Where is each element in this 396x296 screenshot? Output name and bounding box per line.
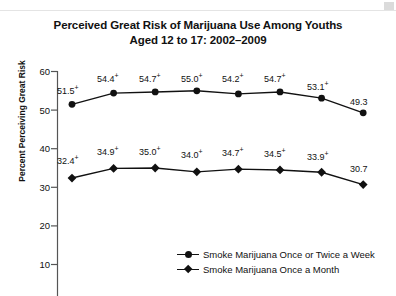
- legend-item-week[interactable]: Smoke Marijuana Once or Twice a Week: [176, 247, 375, 262]
- data-point-week-1[interactable]: [110, 90, 117, 97]
- point-label-month-2: 35.0+: [139, 147, 161, 157]
- point-label-month-1: 34.9+: [97, 147, 119, 157]
- data-series-group: [68, 87, 368, 189]
- data-point-week-0[interactable]: [69, 101, 76, 108]
- legend-diamond-marker-icon: [176, 264, 200, 276]
- data-point-week-2[interactable]: [152, 89, 159, 96]
- point-label-week-5: 54.7+: [264, 74, 286, 84]
- data-point-month-6[interactable]: [317, 168, 326, 177]
- data-point-week-7[interactable]: [360, 109, 367, 116]
- data-point-week-5[interactable]: [277, 89, 284, 96]
- y-axis: [51, 71, 58, 296]
- point-label-month-3: 34.0+: [181, 150, 203, 160]
- data-point-month-5[interactable]: [276, 166, 285, 175]
- point-label-month-0: 32.4+: [57, 156, 79, 166]
- point-label-week-7: 49.3: [350, 97, 368, 107]
- chart-figure: Perceived Great Risk of Marijuana Use Am…: [0, 0, 396, 296]
- point-label-month-6: 33.9+: [307, 152, 329, 162]
- data-point-month-2[interactable]: [151, 164, 160, 173]
- data-point-week-6[interactable]: [318, 95, 325, 102]
- data-point-month-4[interactable]: [234, 165, 243, 174]
- point-label-week-4: 54.2+: [222, 74, 244, 84]
- point-label-month-7: 30.7: [350, 164, 368, 174]
- point-label-week-6: 53.1+: [307, 82, 329, 92]
- legend-circle-marker-icon: [176, 249, 200, 261]
- point-label-month-5: 34.5+: [264, 149, 286, 159]
- data-point-month-7[interactable]: [359, 180, 368, 189]
- point-label-week-1: 54.4+: [97, 74, 119, 84]
- data-point-week-4[interactable]: [235, 90, 242, 97]
- data-point-month-3[interactable]: [192, 167, 201, 176]
- point-label-week-0: 51.5+: [57, 86, 79, 96]
- data-point-month-1[interactable]: [109, 164, 118, 173]
- data-point-week-3[interactable]: [193, 87, 200, 94]
- point-label-week-2: 54.7+: [139, 74, 161, 84]
- legend-label-month: Smoke Marijuana Once a Month: [203, 264, 339, 275]
- data-point-month-0[interactable]: [68, 174, 77, 183]
- point-label-month-4: 34.7+: [222, 148, 244, 158]
- point-label-week-3: 55.0+: [181, 74, 203, 84]
- legend-label-week: Smoke Marijuana Once or Twice a Week: [203, 249, 375, 260]
- chart-legend: Smoke Marijuana Once or Twice a Week Smo…: [176, 247, 375, 277]
- legend-item-month[interactable]: Smoke Marijuana Once a Month: [176, 262, 375, 277]
